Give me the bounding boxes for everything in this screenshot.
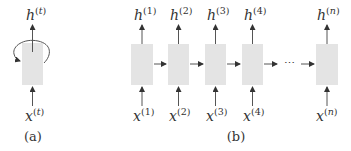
caption-a: (a) [24,129,42,144]
output-label-h-t: h(t) [26,5,46,23]
input-label: x(2) [169,106,190,124]
rnn-cell-n: h(n) x(n) [316,5,340,124]
output-label: h(n) [317,5,340,23]
input-label: x(4) [243,106,264,124]
rnn-cell-4: h(4) x(4) [242,5,267,124]
rnn-cell-3: h(3) x(3) [205,5,230,124]
input-label: x(3) [206,106,227,124]
output-label: h(4) [244,5,267,23]
panel-b: h(1) x(1) h(2) x(2) h(3) x(3) h(4) x(4) [131,5,340,144]
input-label-x-t: x(t) [25,106,44,124]
output-label: h(3) [207,5,230,23]
input-label: x(1) [133,106,154,124]
panel-a: h(t) x(t) (a) [14,5,50,144]
output-label: h(1) [134,5,157,23]
input-label: x(n) [316,106,337,124]
rnn-diagram: h(t) x(t) (a) h(1) x(1) h(2) x(2) h(3) x… [0,0,351,151]
ellipsis: ⋯ [284,57,295,70]
output-label: h(2) [170,5,193,23]
rnn-cell-1: h(1) x(1) [131,5,157,124]
caption-b: (b) [227,129,245,144]
rnn-cell-2: h(2) x(2) [168,5,193,124]
